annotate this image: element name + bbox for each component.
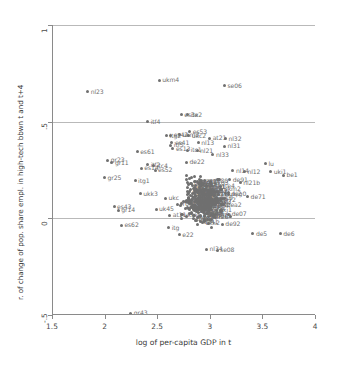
data-point: [185, 174, 188, 177]
point-label: nl31: [227, 142, 240, 149]
point-label: itg1: [138, 177, 149, 184]
data-point: [223, 145, 226, 148]
point-label: de07: [232, 210, 247, 217]
point-label: nl33: [216, 151, 229, 158]
data-point: [221, 223, 224, 226]
gridline: [53, 25, 315, 26]
point-label: nl21b: [243, 179, 260, 186]
data-point: [211, 153, 214, 156]
data-point: [117, 209, 120, 212]
x-tick-label: 3: [195, 322, 225, 331]
point-label: es52: [158, 166, 172, 173]
point-label: ukk3: [143, 190, 157, 197]
y-tick-label: .5: [40, 123, 49, 130]
x-tick-mark: [52, 315, 53, 319]
data-point: [251, 232, 254, 235]
point-label: gr14: [121, 206, 135, 213]
point-label: be35: [203, 183, 218, 190]
x-tick-mark: [315, 315, 316, 319]
data-point: [246, 195, 249, 198]
data-point: [189, 194, 192, 197]
point-label: ukc: [169, 194, 179, 201]
data-point: [224, 137, 227, 140]
point-label: de71: [251, 193, 266, 200]
data-point: [228, 178, 231, 181]
data-point: [208, 218, 211, 221]
data-point: [154, 169, 157, 172]
point-label: e22: [182, 231, 193, 238]
data-point: [103, 176, 106, 179]
point-label: nl23: [91, 88, 104, 95]
y-tick-label: 1: [40, 28, 49, 33]
data-point: [164, 197, 167, 200]
point-label: nl32: [229, 135, 242, 142]
point-label: es61: [140, 148, 154, 155]
point-label: be1: [286, 171, 297, 178]
x-tick-label: 2.5: [142, 322, 172, 331]
data-point: [120, 224, 123, 227]
point-label: itg2: [170, 132, 181, 139]
plot-frame: de11de12de13de14de21de23de24de25de26de27…: [52, 25, 315, 315]
data-point: [129, 312, 132, 314]
data-point: [140, 167, 143, 170]
point-label: se06: [227, 82, 241, 89]
y-axis-label: r. of change of pop. share empl. in high…: [16, 85, 25, 300]
data-point: [167, 226, 170, 229]
x-tick-mark: [157, 315, 158, 319]
data-point: [185, 161, 188, 164]
data-point: [196, 149, 199, 152]
data-point: [158, 79, 161, 82]
point-label: dk00: [196, 204, 211, 211]
data-point: [231, 169, 234, 172]
point-label: de5: [256, 230, 267, 237]
data-point: [178, 233, 181, 236]
data-point: [155, 208, 158, 211]
point-label: ukm4: [162, 76, 179, 83]
point-label: itg: [172, 224, 180, 231]
point-label: es62: [124, 221, 138, 228]
x-tick-label: 1.5: [37, 322, 67, 331]
data-point: [165, 134, 168, 137]
point-label: gr11: [115, 159, 129, 166]
data-point: [134, 179, 137, 182]
point-label: ukc2: [192, 132, 206, 139]
data-point: [197, 141, 200, 144]
data-point: [106, 159, 109, 162]
gridline: [53, 218, 315, 219]
y-tick-label: 0: [40, 222, 49, 227]
data-point: [179, 204, 182, 207]
x-tick-mark: [262, 315, 263, 319]
data-point: [282, 174, 285, 177]
data-point: [136, 150, 139, 153]
point-label: be34: [213, 202, 228, 209]
x-tick-label: 4: [300, 322, 330, 331]
x-tick-label: 2: [90, 322, 120, 331]
data-point: [210, 226, 213, 229]
point-label: lu: [269, 160, 274, 167]
point-label: gr43: [134, 309, 148, 314]
data-point: [216, 249, 219, 252]
point-label: itf4: [151, 118, 161, 125]
scatter-plot-figure: r. of change of pop. share empl. in high…: [0, 0, 340, 377]
x-tick-mark: [210, 315, 211, 319]
point-label: uk45: [159, 205, 174, 212]
data-point: [239, 181, 242, 184]
point-label: nl13: [201, 139, 214, 146]
data-point: [184, 200, 187, 203]
data-point: [186, 149, 189, 152]
data-point: [196, 223, 199, 226]
data-point: [205, 248, 208, 251]
data-point: [279, 232, 282, 235]
plot-area: de11de12de13de14de21de23de24de25de26de27…: [53, 25, 315, 314]
data-point: [223, 84, 226, 87]
data-point: [269, 170, 272, 173]
data-point: [264, 162, 267, 165]
data-point: [113, 205, 116, 208]
data-point: [188, 190, 191, 193]
point-label: nl12: [247, 168, 260, 175]
data-point: [187, 199, 190, 202]
point-label: at11: [173, 211, 186, 218]
data-point: [187, 183, 190, 186]
data-point: [139, 192, 142, 195]
data-point: [168, 214, 171, 217]
